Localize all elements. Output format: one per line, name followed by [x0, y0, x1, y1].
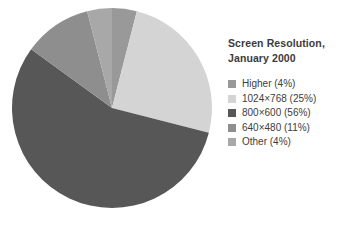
legend-title: Screen Resolution, January 2000 — [228, 36, 348, 66]
legend-item: 800×600 (56%) — [228, 106, 348, 120]
chart-legend: Screen Resolution, January 2000 Higher (… — [228, 36, 348, 150]
legend-swatch — [228, 138, 236, 146]
legend-item-label: 1024×768 (25%) — [242, 92, 316, 106]
legend-swatch — [228, 124, 236, 132]
legend-swatch — [228, 95, 236, 103]
pie-svg — [10, 6, 214, 210]
legend-item-label: Other (4%) — [242, 135, 291, 149]
legend-swatch — [228, 109, 236, 117]
pie-slice-group — [12, 8, 212, 208]
legend-item-list: Higher (4%)1024×768 (25%)800×600 (56%)64… — [228, 77, 348, 149]
legend-item: 1024×768 (25%) — [228, 92, 348, 106]
legend-item-label: 640×480 (11%) — [242, 121, 310, 135]
legend-title-line-2: January 2000 — [228, 51, 348, 66]
legend-item-label: Higher (4%) — [242, 77, 295, 91]
legend-swatch — [228, 80, 236, 88]
legend-item: Higher (4%) — [228, 77, 348, 91]
pie-chart-graphic — [10, 6, 214, 210]
legend-item: 640×480 (11%) — [228, 121, 348, 135]
legend-item: Other (4%) — [228, 135, 348, 149]
pie-chart-figure: Screen Resolution, January 2000 Higher (… — [0, 0, 352, 226]
legend-item-label: 800×600 (56%) — [242, 106, 311, 120]
legend-title-line-1: Screen Resolution, — [228, 36, 348, 51]
